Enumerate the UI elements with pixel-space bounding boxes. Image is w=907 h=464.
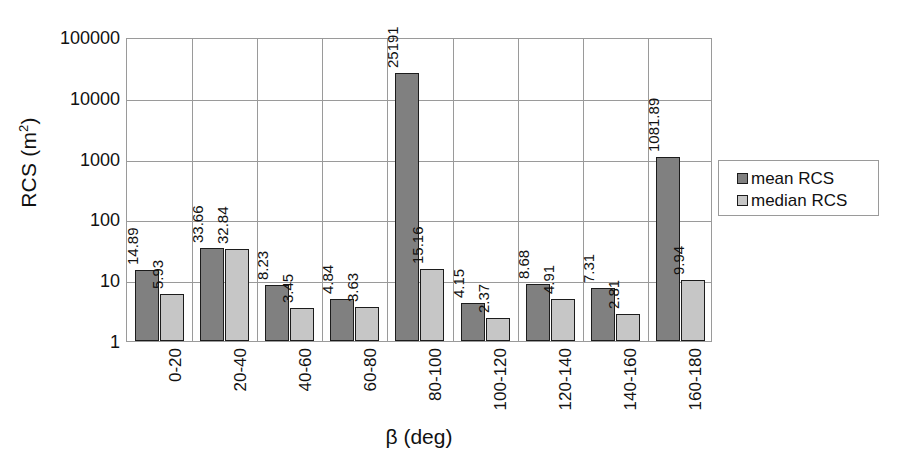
bar-value-label: 3.63 xyxy=(345,273,360,302)
bar-mean-rcs[interactable]: 4.84 xyxy=(330,299,354,341)
bar-value-label: 4.91 xyxy=(541,265,556,294)
y-tick-label: 10 xyxy=(24,272,120,290)
bar-value-label: 33.66 xyxy=(190,206,205,244)
y-tick-label: 1000 xyxy=(24,151,120,169)
x-axis-title: β (deg) xyxy=(126,425,712,449)
y-tick-label: 10000 xyxy=(24,90,120,108)
bar-median-rcs[interactable]: 15.16 xyxy=(420,269,444,341)
bar-value-label: 2.37 xyxy=(476,284,491,313)
bar-mean-rcs[interactable]: 33.66 xyxy=(200,248,224,341)
bar-group: 4.152.37 xyxy=(453,39,518,341)
y-tick-label: 1 xyxy=(24,333,120,351)
bar-group: 33.6632.84 xyxy=(192,39,257,341)
bar-value-label: 1081.89 xyxy=(646,97,661,151)
bar-value-label: 3.45 xyxy=(280,274,295,303)
bar-value-label: 7.31 xyxy=(581,254,596,283)
legend-item[interactable]: median RCS xyxy=(737,189,878,211)
bar-median-rcs[interactable]: 9.94 xyxy=(681,280,705,341)
x-tick-label: 80-100 xyxy=(427,348,444,401)
x-tick-label: 20-40 xyxy=(232,348,249,391)
y-tick-label: 100 xyxy=(24,211,120,229)
bar-value-label: 5.93 xyxy=(150,260,165,289)
bar-mean-rcs[interactable]: 25191 xyxy=(395,73,419,341)
bar-median-rcs[interactable]: 2.37 xyxy=(486,318,510,341)
y-tick-label: 100000 xyxy=(24,29,120,47)
legend-swatch-median-rcs xyxy=(737,195,748,206)
bar-value-label: 4.15 xyxy=(451,269,466,298)
bar-value-label: 4.84 xyxy=(320,265,335,294)
x-axis-tick-labels: 0-2020-4040-6060-8080-100100-120120-1401… xyxy=(126,346,712,418)
bar-median-rcs[interactable]: 5.93 xyxy=(160,294,184,341)
bar-group: 2519115.16 xyxy=(387,39,452,341)
x-tick-label: 140-160 xyxy=(622,348,639,410)
x-tick-label: 0-20 xyxy=(167,348,184,382)
x-tick-label: 100-120 xyxy=(492,348,509,410)
x-tick-label: 120-140 xyxy=(557,348,574,410)
bar-value-label: 8.68 xyxy=(516,250,531,279)
plot-area: 14.895.9333.6632.848.233.454.843.6325191… xyxy=(126,38,712,342)
bar-group: 1081.899.94 xyxy=(648,39,713,341)
bar-median-rcs[interactable]: 3.63 xyxy=(355,307,379,341)
bar-value-label: 32.84 xyxy=(215,206,230,244)
legend-item[interactable]: mean RCS xyxy=(737,167,878,189)
bar-median-rcs[interactable]: 3.45 xyxy=(290,308,314,341)
x-tick-label: 60-80 xyxy=(362,348,379,391)
bar-median-rcs[interactable]: 2.81 xyxy=(616,314,640,341)
bar-group: 4.843.63 xyxy=(322,39,387,341)
bar-median-rcs[interactable]: 4.91 xyxy=(551,299,575,341)
legend-label: median RCS xyxy=(751,192,847,209)
x-tick-label: 40-60 xyxy=(297,348,314,391)
rcs-bar-chart: RCS (m2) 100000100001000100101 14.895.93… xyxy=(0,0,907,464)
x-tick-label: 160-180 xyxy=(687,348,704,410)
bar-median-rcs[interactable]: 32.84 xyxy=(225,249,249,341)
bar-value-label: 2.81 xyxy=(606,280,621,309)
bar-group: 8.233.45 xyxy=(257,39,322,341)
legend-label: mean RCS xyxy=(751,170,834,187)
bar-value-label: 14.89 xyxy=(125,227,140,265)
bar-value-label: 25191 xyxy=(385,27,400,69)
bar-group: 8.684.91 xyxy=(518,39,583,341)
bar-group: 7.312.81 xyxy=(583,39,648,341)
bar-value-label: 8.23 xyxy=(255,251,270,280)
bar-value-label: 15.16 xyxy=(410,227,425,265)
chart-legend: mean RCSmedian RCS xyxy=(718,160,879,216)
bar-value-label: 9.94 xyxy=(671,246,686,275)
y-axis-tick-labels: 100000100001000100101 xyxy=(24,38,120,342)
legend-swatch-mean-rcs xyxy=(737,173,748,184)
bar-group: 14.895.93 xyxy=(127,39,192,341)
